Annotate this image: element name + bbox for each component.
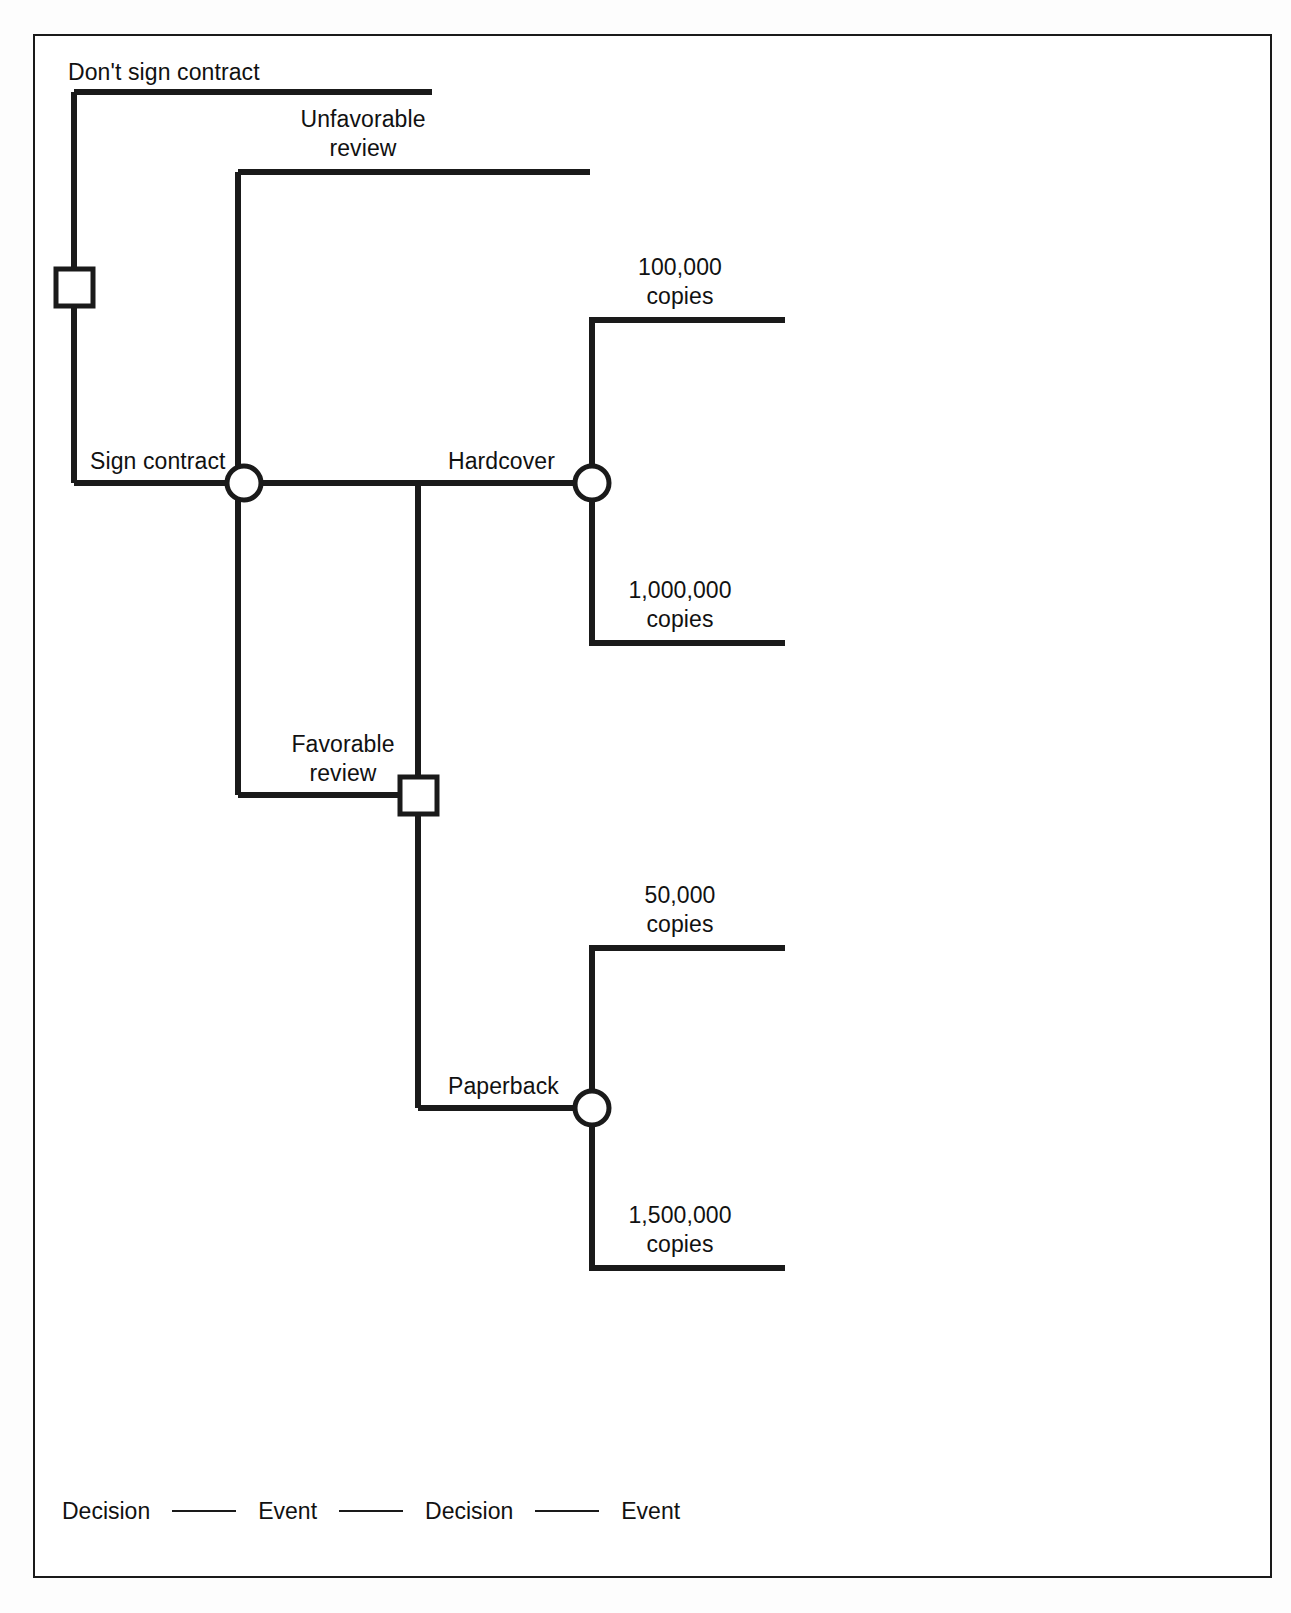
legend: Decision Event Decision Event: [62, 1491, 762, 1531]
outcome-paperback-50000-copies: 50,000 copies: [580, 881, 780, 939]
label-unfavorable-review: Unfavorable review: [238, 105, 488, 163]
label-favorable-review: Favorable review: [228, 730, 458, 788]
outcome-paperback-1500000-copies: 1,500,000 copies: [580, 1201, 780, 1259]
label-dont-sign-contract: Don't sign contract: [68, 58, 260, 87]
legend-dash-3: [535, 1510, 599, 1512]
legend-item-decision-1: Decision: [62, 1498, 150, 1525]
page-canvas: Don't sign contract Unfavorable review S…: [0, 0, 1291, 1613]
label-paperback: Paperback: [448, 1072, 559, 1101]
label-sign-contract: Sign contract: [90, 447, 226, 476]
legend-item-decision-2: Decision: [425, 1498, 513, 1525]
legend-item-event-1: Event: [258, 1498, 317, 1525]
legend-dash-2: [339, 1510, 403, 1512]
legend-item-event-2: Event: [621, 1498, 680, 1525]
outcome-hardcover-100000-copies: 100,000 copies: [580, 253, 780, 311]
legend-dash-1: [172, 1510, 236, 1512]
outcome-hardcover-1000000-copies: 1,000,000 copies: [580, 576, 780, 634]
label-hardcover: Hardcover: [448, 447, 555, 476]
